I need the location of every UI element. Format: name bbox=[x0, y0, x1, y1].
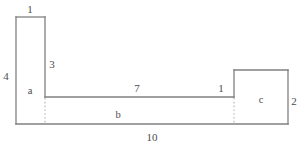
geometry-figure: abc 14371210 bbox=[0, 0, 302, 148]
region-a: a bbox=[28, 86, 33, 97]
dim-top-left-width: 1 bbox=[27, 4, 33, 15]
dim-right-height: 2 bbox=[291, 96, 297, 107]
dim-bottom-width: 10 bbox=[147, 132, 158, 143]
figure-canvas bbox=[0, 0, 302, 148]
dotted-guide-lines bbox=[45, 98, 234, 124]
dim-right-gap: 1 bbox=[218, 83, 224, 94]
dim-middle-width: 7 bbox=[134, 83, 140, 94]
dim-inner-vertical: 3 bbox=[49, 59, 55, 70]
region-b: b bbox=[115, 110, 120, 121]
dim-left-height: 4 bbox=[3, 71, 9, 82]
region-c: c bbox=[259, 95, 264, 106]
solid-outline bbox=[16, 17, 288, 124]
